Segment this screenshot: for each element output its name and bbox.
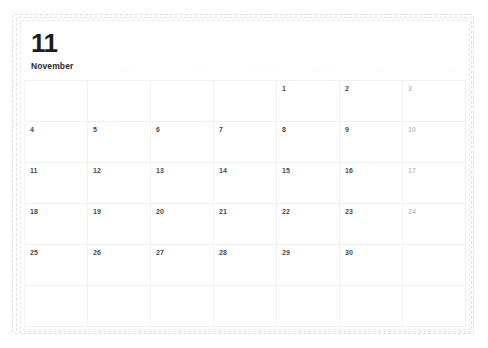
day-number: 8 <box>282 126 286 133</box>
day-number: 16 <box>345 167 353 174</box>
calendar-day-cell-empty <box>403 286 466 327</box>
month-number: 11 <box>31 30 151 56</box>
day-number: 10 <box>408 126 416 133</box>
calendar-day-cell[interactable]: 17 <box>403 163 466 204</box>
calendar-day-cell[interactable]: 26 <box>88 245 151 286</box>
weekday-header-row: SundayMondayTuesdayWednesdayThursdayFrid… <box>24 68 466 80</box>
day-number: 22 <box>282 208 290 215</box>
calendar-day-cell-empty <box>25 81 88 122</box>
calendar-page: 11 November SundayMondayTuesdayWednesday… <box>0 0 488 348</box>
day-number: 29 <box>282 249 290 256</box>
calendar-day-cell-empty <box>151 81 214 122</box>
day-number: 13 <box>156 167 164 174</box>
day-number: 24 <box>408 208 416 215</box>
calendar-day-cell[interactable]: 16 <box>340 163 403 204</box>
day-number: 26 <box>93 249 101 256</box>
calendar-day-cell[interactable]: 14 <box>214 163 277 204</box>
calendar-day-cell[interactable]: 18 <box>25 204 88 245</box>
calendar-day-cell[interactable]: 9 <box>340 122 403 163</box>
weekday-header-mon: Monday <box>87 68 150 80</box>
day-number: 9 <box>345 126 349 133</box>
calendar-day-cell[interactable]: 13 <box>151 163 214 204</box>
day-number: 11 <box>30 167 37 174</box>
calendar-day-cell-empty <box>403 245 466 286</box>
day-number: 21 <box>219 208 227 215</box>
day-number: 25 <box>30 249 38 256</box>
calendar-day-cell-empty <box>88 81 151 122</box>
calendar-day-cell[interactable]: 7 <box>214 122 277 163</box>
calendar-day-cell[interactable]: 2 <box>340 81 403 122</box>
calendar-day-cell[interactable]: 5 <box>88 122 151 163</box>
calendar-day-cell[interactable]: 30 <box>340 245 403 286</box>
calendar-day-cell[interactable]: 4 <box>25 122 88 163</box>
day-number: 20 <box>156 208 164 215</box>
calendar-day-cell-empty <box>340 286 403 327</box>
calendar-day-cell[interactable]: 28 <box>214 245 277 286</box>
calendar-day-cell[interactable]: 20 <box>151 204 214 245</box>
calendar-day-cell[interactable]: 15 <box>277 163 340 204</box>
calendar-week-row: 252627282930 <box>25 245 466 286</box>
weekday-header-fri: Friday <box>340 68 403 80</box>
day-number: 23 <box>345 208 353 215</box>
calendar-day-cell-empty <box>88 286 151 327</box>
calendar-day-cell[interactable]: 25 <box>25 245 88 286</box>
calendar-day-cell[interactable]: 1 <box>277 81 340 122</box>
calendar-day-cell[interactable]: 29 <box>277 245 340 286</box>
day-number: 7 <box>219 126 223 133</box>
calendar-day-cell-empty <box>151 286 214 327</box>
day-number: 12 <box>93 167 101 174</box>
calendar-day-cell[interactable]: 3 <box>403 81 466 122</box>
day-number: 3 <box>408 85 412 92</box>
day-number: 18 <box>30 208 38 215</box>
calendar-day-cell-empty <box>25 286 88 327</box>
calendar-week-row <box>25 286 466 327</box>
day-number: 4 <box>30 126 34 133</box>
day-number: 17 <box>408 167 416 174</box>
calendar-day-cell-empty <box>214 286 277 327</box>
day-number: 1 <box>282 85 286 92</box>
calendar-grid: SundayMondayTuesdayWednesdayThursdayFrid… <box>24 68 466 327</box>
calendar-day-cell[interactable]: 23 <box>340 204 403 245</box>
weekday-header-sun: Sunday <box>24 68 87 80</box>
calendar-day-cell[interactable]: 19 <box>88 204 151 245</box>
weekday-header-wed: Wednesday <box>213 68 276 80</box>
calendar-day-cell[interactable]: 27 <box>151 245 214 286</box>
calendar-week-row: 123 <box>25 81 466 122</box>
calendar-day-cell[interactable]: 12 <box>88 163 151 204</box>
calendar-day-cell-empty <box>214 81 277 122</box>
calendar-day-cell-empty <box>277 286 340 327</box>
calendar-day-cell[interactable]: 24 <box>403 204 466 245</box>
weekday-header-tue: Tuesday <box>150 68 213 80</box>
calendar-day-cell[interactable]: 8 <box>277 122 340 163</box>
day-number: 15 <box>282 167 290 174</box>
calendar-day-cell[interactable]: 10 <box>403 122 466 163</box>
day-number: 30 <box>345 249 353 256</box>
calendar-masthead: 11 November <box>31 30 151 71</box>
calendar-day-cell[interactable]: 6 <box>151 122 214 163</box>
calendar-day-cell[interactable]: 11 <box>25 163 88 204</box>
calendar-week-row: 18192021222324 <box>25 204 466 245</box>
calendar-day-cell[interactable]: 21 <box>214 204 277 245</box>
day-number: 6 <box>156 126 160 133</box>
calendar-week-row: 11121314151617 <box>25 163 466 204</box>
calendar-weeks: 1234567891011121314151617181920212223242… <box>24 80 466 327</box>
day-number: 19 <box>93 208 101 215</box>
calendar-week-row: 45678910 <box>25 122 466 163</box>
day-number: 2 <box>345 85 349 92</box>
weekday-header-thu: Thursday <box>277 68 340 80</box>
day-number: 5 <box>93 126 97 133</box>
day-number: 27 <box>156 249 164 256</box>
calendar-day-cell[interactable]: 22 <box>277 204 340 245</box>
day-number: 14 <box>219 167 227 174</box>
day-number: 28 <box>219 249 227 256</box>
weekday-header-sat: Saturday <box>403 68 466 80</box>
